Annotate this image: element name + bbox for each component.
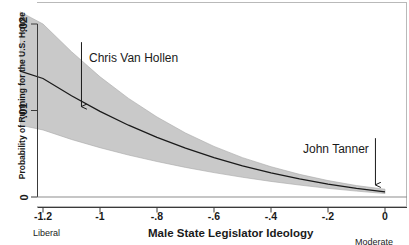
y-tick-label-0: 0 [19,185,30,211]
x-tick-label--1.2: -1.2 [23,211,63,222]
x-tick-label--0.6: -.6 [194,211,234,222]
chart-figure: Probability of Running for the U.S. Hous… [0,0,409,245]
annotation-label-john-tanner: John Tanner [303,143,369,155]
x-tick-label--0.8: -.8 [137,211,177,222]
x-tick-label-0: 0 [365,211,405,222]
annotation-label-chris-van-hollen: Chris Van Hollen [89,52,178,64]
confidence-band [20,12,385,194]
x-axis-left-endpoint-label: Liberal [33,229,60,238]
y-tick-label-0.02: .02 [18,12,29,38]
x-axis-label: Male State Legislator Ideology [148,228,314,240]
x-axis-right-endpoint-label: Moderate [355,238,393,245]
chart-canvas [0,0,409,245]
x-tick-label--0.2: -.2 [308,211,348,222]
x-tick-label--1: -1 [80,211,120,222]
x-tick-label--0.4: -.4 [251,211,291,222]
y-tick-label-0.01: .01 [18,98,29,124]
